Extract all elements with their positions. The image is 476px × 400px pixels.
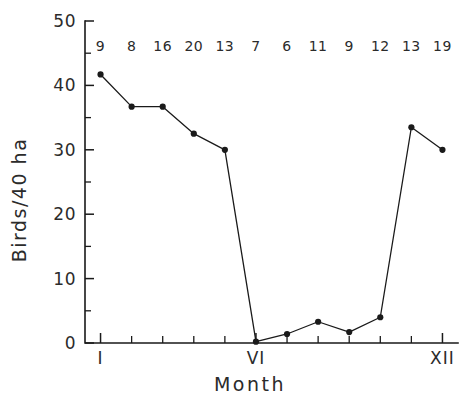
y-tick-label: 50 bbox=[53, 11, 76, 31]
y-tick-label: 10 bbox=[53, 269, 76, 289]
data-point-marker bbox=[160, 104, 166, 110]
data-series bbox=[101, 74, 443, 341]
sample-size-label: 9 bbox=[96, 38, 105, 54]
data-point-marker bbox=[346, 329, 352, 335]
sample-size-label: 8 bbox=[127, 38, 136, 54]
data-point-marker bbox=[377, 314, 383, 320]
y-axis-ticks bbox=[85, 21, 94, 343]
data-point-marker bbox=[253, 339, 259, 345]
data-point-marker bbox=[315, 319, 321, 325]
sample-size-label: 7 bbox=[251, 38, 260, 54]
data-point-marker bbox=[439, 147, 445, 153]
data-point-marker bbox=[284, 331, 290, 337]
data-point-marker bbox=[191, 131, 197, 137]
sample-size-label: 16 bbox=[153, 38, 172, 54]
y-tick-label: 40 bbox=[53, 75, 76, 95]
x-tick-label: I bbox=[98, 348, 104, 368]
sample-size-label: 13 bbox=[402, 38, 421, 54]
y-axis-tick-labels: 01020304050 bbox=[53, 11, 76, 353]
sample-size-label: 11 bbox=[309, 38, 328, 54]
y-tick-label: 30 bbox=[53, 140, 76, 160]
chart-figure: 01020304050 IVIXII 9816201376119121319 M… bbox=[0, 0, 476, 400]
sample-size-label: 19 bbox=[433, 38, 452, 54]
data-point-marker bbox=[129, 104, 135, 110]
data-point-markers bbox=[97, 71, 445, 344]
sample-size-label: 9 bbox=[344, 38, 353, 54]
sample-size-labels: 9816201376119121319 bbox=[96, 38, 452, 54]
y-tick-label: 20 bbox=[53, 204, 76, 224]
sample-size-label: 13 bbox=[215, 38, 234, 54]
x-axis-tick-labels: IVIXII bbox=[98, 348, 455, 368]
data-point-marker bbox=[408, 124, 414, 130]
sample-size-label: 6 bbox=[282, 38, 291, 54]
sample-size-label: 12 bbox=[371, 38, 390, 54]
data-point-marker bbox=[222, 147, 228, 153]
x-tick-label: VI bbox=[247, 348, 266, 368]
sample-size-label: 20 bbox=[184, 38, 203, 54]
x-axis-title: Month bbox=[214, 373, 286, 395]
data-point-marker bbox=[97, 71, 103, 77]
y-axis-title: Birds/40 ha bbox=[8, 138, 30, 263]
series-line bbox=[101, 74, 443, 341]
line-chart: 01020304050 IVIXII 9816201376119121319 M… bbox=[0, 0, 476, 400]
y-tick-label: 0 bbox=[65, 333, 76, 353]
x-tick-label: XII bbox=[430, 348, 455, 368]
